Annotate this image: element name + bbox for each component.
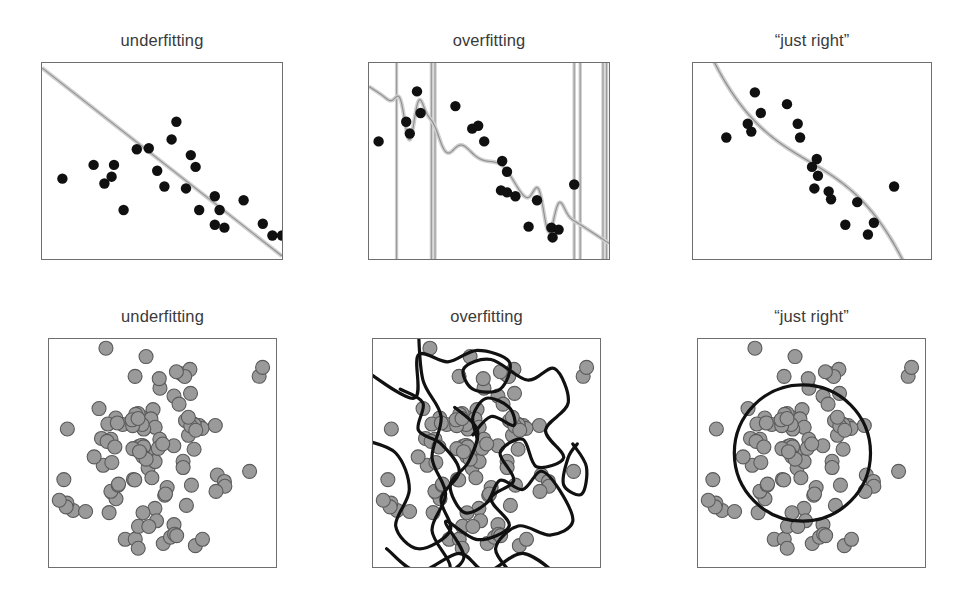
data-point — [142, 519, 156, 533]
data-point — [469, 471, 483, 485]
data-point — [450, 101, 460, 111]
data-point — [852, 197, 862, 207]
data-point — [102, 506, 116, 520]
data-point — [128, 369, 142, 383]
data-point — [480, 437, 494, 451]
data-point — [384, 422, 398, 436]
data-point — [892, 464, 906, 478]
data-point — [145, 471, 159, 485]
data-point — [189, 423, 203, 437]
data-point — [214, 205, 224, 215]
data-point — [412, 86, 422, 96]
data-point — [186, 150, 196, 160]
data-point — [112, 477, 126, 491]
data-point — [833, 478, 847, 492]
data-point — [105, 455, 119, 469]
data-point — [238, 195, 248, 205]
data-point — [863, 229, 873, 239]
data-point — [746, 126, 756, 136]
overfit-polynomial-curve — [369, 63, 609, 259]
data-point — [171, 117, 181, 127]
linear-fit-line — [42, 68, 282, 256]
data-point — [139, 350, 153, 364]
data-points — [57, 117, 282, 241]
data-point — [128, 473, 142, 487]
data-point — [144, 143, 154, 153]
data-point — [502, 167, 512, 177]
data-point — [256, 360, 270, 374]
data-point — [277, 230, 282, 240]
data-point — [466, 519, 480, 533]
figure-overfitting-underfitting: underfittingoverfitting“just right”under… — [0, 0, 965, 593]
data-point — [889, 181, 899, 191]
data-point — [511, 442, 525, 456]
data-point — [118, 205, 128, 215]
data-point — [567, 464, 581, 478]
data-point — [52, 493, 66, 507]
data-point — [131, 411, 145, 425]
plot-frame-regression-underfitting — [41, 62, 283, 260]
panel-title-regression-overfitting: overfitting — [308, 30, 670, 50]
data-point — [497, 156, 507, 166]
data-point — [187, 442, 201, 456]
data-point — [57, 173, 67, 183]
data-point — [415, 108, 425, 118]
data-point — [794, 471, 808, 485]
data-point — [793, 119, 803, 129]
data-point — [208, 419, 222, 433]
data-point — [184, 386, 198, 400]
data-point — [569, 179, 579, 189]
data-point — [479, 136, 489, 146]
data-point — [701, 493, 715, 507]
panel-title-cluster-overfitting: overfitting — [312, 306, 661, 326]
data-point — [243, 464, 257, 478]
data-point — [721, 132, 731, 142]
data-point — [60, 422, 74, 436]
data-point — [750, 87, 760, 97]
data-point — [761, 477, 775, 491]
data-point — [79, 504, 93, 518]
data-point — [510, 191, 520, 201]
data-point — [473, 121, 483, 131]
panel-title-cluster-just-right: “just right” — [637, 306, 965, 326]
data-point — [132, 144, 142, 154]
data-point — [172, 397, 186, 411]
data-point — [826, 194, 836, 204]
data-point — [845, 532, 859, 546]
data-point — [777, 473, 791, 487]
plot-frame-cluster-overfitting — [372, 338, 601, 568]
panel-regression-underfitting: underfitting — [0, 30, 343, 260]
data-point — [819, 529, 833, 543]
data-point — [788, 350, 802, 364]
data-point — [57, 473, 71, 487]
data-point — [580, 360, 594, 374]
data-point — [728, 504, 742, 518]
data-point — [181, 183, 191, 193]
data-point — [411, 450, 425, 464]
data-point — [821, 397, 835, 411]
data-point — [92, 402, 106, 416]
panel-regression-just-right: “just right” — [632, 30, 965, 260]
data-point — [166, 134, 176, 144]
data-point — [736, 450, 750, 464]
data-point — [795, 132, 805, 142]
data-point — [780, 541, 794, 555]
data-point — [830, 410, 844, 424]
data-point — [754, 455, 768, 469]
data-point — [106, 171, 116, 181]
data-point — [170, 529, 184, 543]
data-point — [159, 181, 169, 191]
data-point — [780, 411, 794, 425]
data-point — [258, 219, 268, 229]
data-points — [721, 87, 899, 240]
data-point — [181, 410, 195, 424]
data-point — [108, 440, 122, 454]
data-point — [818, 365, 832, 379]
data-point — [159, 487, 173, 501]
panel-title-regression-just-right: “just right” — [632, 30, 965, 50]
data-point — [184, 478, 198, 492]
plot-frame-regression-overfitting — [368, 62, 610, 260]
data-point — [456, 445, 470, 459]
data-point — [169, 365, 183, 379]
data-point — [196, 532, 210, 546]
